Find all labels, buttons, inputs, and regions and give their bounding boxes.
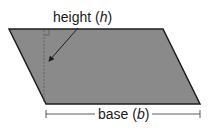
parallelogram-shape <box>9 29 200 104</box>
height-label: height (h) <box>53 9 112 25</box>
parallelogram-diagram: height (h) base (b) <box>0 0 211 131</box>
base-label: base (b) <box>98 106 149 122</box>
